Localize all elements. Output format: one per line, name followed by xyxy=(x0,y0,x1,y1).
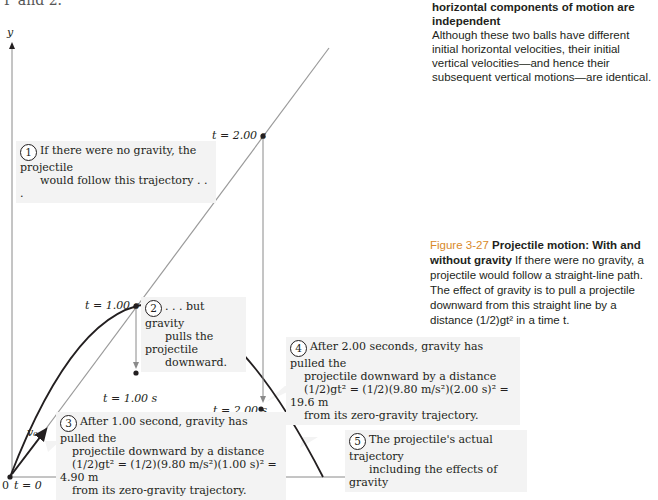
time-label-straight-2s: t = 2.00 s xyxy=(212,129,266,142)
callout-5: 5The projectile's actual trajectory incl… xyxy=(345,430,527,492)
origin-time-label: t = 0 xyxy=(14,479,42,492)
origin-label: 0 xyxy=(2,479,9,492)
point-curve-1s xyxy=(133,370,138,375)
callout-number-2: 2 xyxy=(145,300,162,317)
callout-2: 2. . . but gravity pulls the projectile … xyxy=(141,297,246,372)
page-text-fragment: P and 2. xyxy=(4,0,62,8)
figure-number: Figure 3-27 xyxy=(430,239,489,251)
side-heading-block: horizontal components of motion are inde… xyxy=(432,0,658,84)
time-label-curve-1s: t = 1.00 s xyxy=(103,392,157,405)
figure-caption: Figure 3-27 Projectile motion: With and … xyxy=(430,238,658,328)
y-axis-label: y xyxy=(7,26,13,39)
callout-number-3: 3 xyxy=(60,415,77,432)
velocity-label: v₀ xyxy=(27,426,38,439)
side-heading-bold: horizontal components of motion are inde… xyxy=(432,1,635,27)
time-label-straight-1s: t = 1.00 s xyxy=(85,299,139,312)
callout-number-5: 5 xyxy=(349,433,366,450)
callout-1: 1If there were no gravity, the projectil… xyxy=(16,141,216,203)
callout-4: 4After 2.00 seconds, gravity has pulled … xyxy=(286,337,520,425)
side-heading-text: Although these two balls have different … xyxy=(432,29,651,83)
callout-number-1: 1 xyxy=(20,144,37,161)
callout-number-4: 4 xyxy=(290,340,307,357)
callout-3: 3After 1.00 second, gravity has pulled t… xyxy=(56,412,286,500)
